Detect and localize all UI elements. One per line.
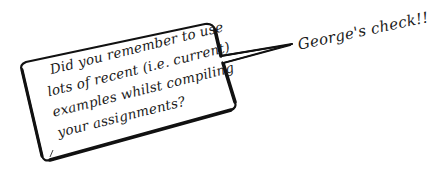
speech-bubble-illustration: Did you remember to use lots of recent (… <box>0 0 428 174</box>
